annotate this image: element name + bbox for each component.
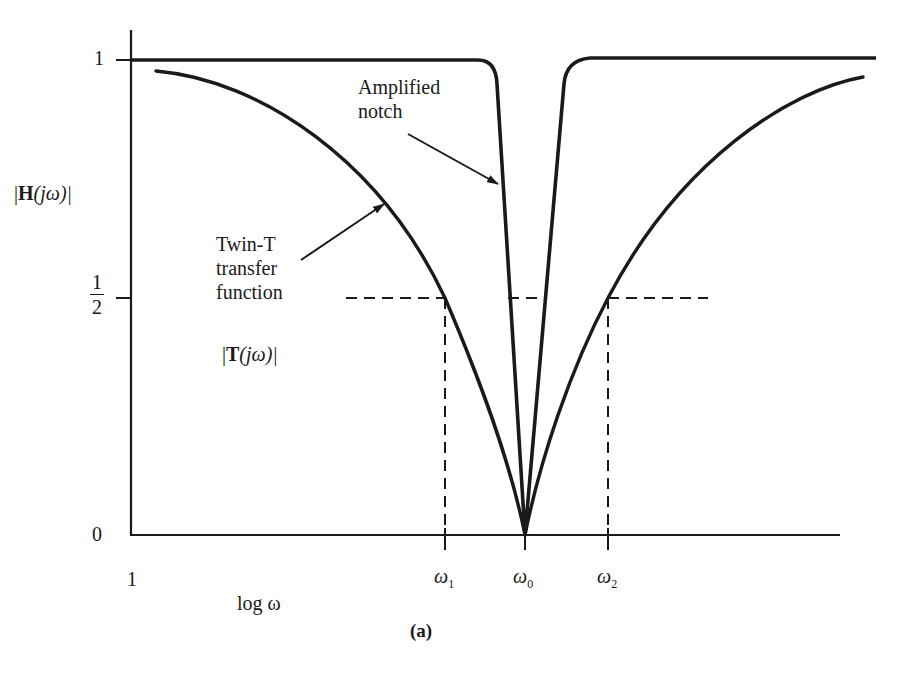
y-label-post: (jω)| — [34, 182, 73, 204]
w0-subscript: 0 — [527, 577, 533, 591]
twin-t-arrow — [301, 204, 384, 260]
y-tick-label-1: 1 — [94, 47, 104, 69]
fraction-bar — [90, 294, 104, 295]
twin-t-label-line2: transfer — [216, 257, 277, 279]
x-tick-label-w0: ω0 — [513, 565, 533, 591]
w1-subscript: 1 — [448, 577, 454, 591]
amplified-notch-arrow — [408, 134, 498, 184]
twin-t-label-line3: function — [216, 281, 283, 303]
amplified-notch-label-line2: notch — [358, 100, 402, 122]
t-function-label: |T(jω)| — [222, 343, 278, 365]
x-tick-label-w1: ω1 — [434, 565, 454, 591]
w2-subscript: 2 — [611, 577, 617, 591]
figure-caption: (a) — [410, 621, 432, 642]
y-axis-label: |H(jω)| — [14, 182, 72, 204]
twin-t-label-line1: Twin-T — [216, 233, 276, 255]
w2-symbol: ω — [597, 565, 611, 587]
half-numerator: 1 — [92, 271, 102, 293]
half-denominator: 2 — [92, 296, 102, 318]
y-tick-label-half: 1 2 — [90, 272, 104, 317]
w0-symbol: ω — [513, 565, 527, 587]
w1-symbol: ω — [434, 565, 448, 587]
y-tick-label-0: 0 — [92, 523, 102, 545]
x-tick-label-1: 1 — [127, 568, 137, 590]
x-axis-label: log ω — [237, 592, 281, 614]
t-label-post: (jω)| — [239, 343, 278, 365]
t-label-bold: T — [226, 343, 239, 365]
y-label-bold: H — [18, 182, 34, 204]
x-tick-label-w2: ω2 — [597, 565, 617, 591]
amplified-notch-label-line1: Amplified — [358, 76, 440, 98]
